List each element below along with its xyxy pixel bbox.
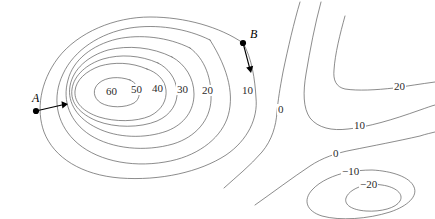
contour-label-right-0-upper: 0: [277, 104, 285, 115]
contour-label-40: 40: [151, 83, 164, 94]
contour-line-0-upper: [224, 2, 300, 188]
contour-line-10-right: [304, 2, 435, 130]
contour-label-right-10: 10: [353, 120, 366, 131]
contour-label-30: 30: [176, 84, 189, 95]
contour-label-60: 60: [105, 86, 118, 97]
contour-label-50: 50: [130, 84, 143, 95]
contour-map-figure: A B 60 50 40 30 20 10 20 0 10 0 −10 −20: [0, 0, 435, 219]
contour-label-minus-10: −10: [341, 166, 360, 177]
contour-line-20-right: [334, 16, 435, 90]
contour-label-minus-20: −20: [359, 179, 378, 190]
point-b-label: B: [250, 28, 257, 40]
point-a-arrow-shaft: [38, 105, 63, 111]
point-a-label: A: [32, 92, 39, 104]
point-b-arrow-head: [246, 66, 253, 73]
contour-label-10: 10: [241, 85, 254, 96]
point-b-marker: [240, 40, 246, 46]
contour-label-20: 20: [201, 85, 214, 96]
point-b-arrow-shaft: [244, 46, 250, 68]
contour-label-right-20: 20: [393, 81, 406, 92]
contour-label-right-0-lower: 0: [332, 148, 340, 159]
